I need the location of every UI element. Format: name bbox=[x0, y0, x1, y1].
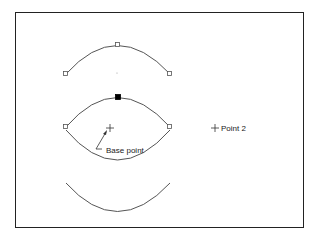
point-2-crosshair-icon bbox=[211, 124, 219, 132]
top-arc[interactable] bbox=[64, 43, 172, 76]
grip-right-icon[interactable] bbox=[168, 72, 172, 76]
arc-center-dot bbox=[116, 72, 117, 73]
point-2-label: Point 2 bbox=[221, 124, 246, 133]
grip-left-icon[interactable] bbox=[64, 72, 68, 76]
grip-right-icon[interactable] bbox=[168, 125, 172, 129]
grip-selected-icon[interactable] bbox=[116, 95, 121, 100]
bottom-arc[interactable] bbox=[66, 183, 170, 212]
grip-top-icon[interactable] bbox=[116, 43, 120, 47]
base-point-label: Base point bbox=[106, 146, 145, 155]
grip-left-icon[interactable] bbox=[64, 125, 68, 129]
diagram-canvas: Base point Point 2 bbox=[0, 0, 317, 243]
base-point-crosshair-icon bbox=[106, 124, 114, 132]
